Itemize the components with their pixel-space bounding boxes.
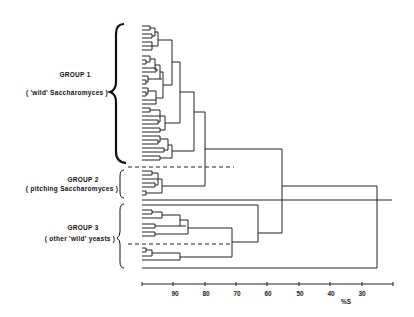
group2-subtitle: ( pitching Saccharomyces ) (22, 185, 122, 192)
axis-unit-label: %S (341, 298, 351, 305)
tick-label-60: 60 (264, 290, 271, 297)
group-brackets (110, 24, 126, 268)
dendrogram-tree (142, 26, 392, 268)
tick-label-50: 50 (296, 290, 303, 297)
tick-label-90: 90 (171, 290, 178, 297)
dendrogram-canvas (0, 0, 414, 317)
tick-label-70: 70 (233, 290, 240, 297)
group1-subtitle: ( 'wild' Saccharomyces ) (22, 89, 112, 96)
x-axis (142, 282, 393, 286)
tick-label-40: 40 (327, 290, 334, 297)
group3-title: GROUP 3 (48, 224, 118, 231)
tick-label-80: 80 (202, 290, 209, 297)
group3-subtitle: ( other 'wild' yeasts ) (40, 235, 120, 242)
group1-title: GROUP 1 (40, 71, 110, 78)
group2-title: GROUP 2 (48, 176, 118, 183)
tick-label-30: 30 (358, 290, 365, 297)
